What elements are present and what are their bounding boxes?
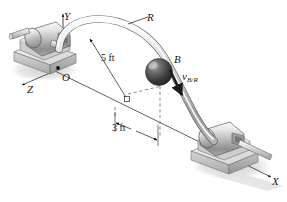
collar-ball-b (146, 59, 173, 86)
rod-label: R (147, 12, 154, 23)
dimension-3ft-label: 3 ft (112, 123, 126, 133)
rod-label-leader (128, 17, 148, 24)
dashed-horizontal-to-b (128, 86, 162, 94)
z-axis-label: Z (27, 84, 33, 95)
origin-label: O (62, 72, 70, 83)
collar-label: B (174, 54, 181, 65)
left-bearing-stub-end (9, 34, 13, 40)
dimension-5ft-label: 5 ft (101, 53, 115, 63)
diagram-canvas (0, 0, 287, 202)
velocity-vector-label: vB/R (182, 71, 198, 84)
x-axis-label: X (272, 176, 279, 187)
origin-point-marker (56, 66, 60, 70)
dimension-vertex-marker (125, 97, 130, 102)
dimension-3ft-arrow-right (136, 131, 157, 140)
dimension-5ft-line (90, 39, 127, 99)
engineering-diagram: Y Z X O R B 5 ft 3 ft vB/R (0, 0, 287, 202)
y-axis-label: Y (64, 11, 70, 22)
velocity-subscript: B/R (187, 76, 198, 84)
